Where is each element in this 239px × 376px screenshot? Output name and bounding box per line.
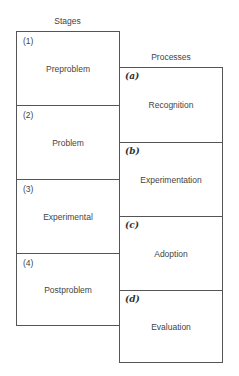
process-a-marker: (a) [125,71,139,81]
processes-column-title: Processes [119,52,223,62]
process-a: (a) Recognition [120,68,222,142]
process-c-label: Adoption [120,249,222,259]
stage-2: (2) Problem [17,105,119,179]
stage-4-label: Postproblem [17,285,119,295]
process-b-label: Experimentation [120,175,222,185]
stage-2-label: Problem [17,138,119,148]
stages-column-title: Stages [16,16,119,26]
stage-1-marker: (1) [23,36,33,46]
stage-3-marker: (3) [23,184,33,194]
process-c-marker: (c) [125,220,139,230]
stage-1: (1) Preproblem [17,32,119,105]
process-a-label: Recognition [120,100,222,110]
process-b: (b) Experimentation [120,142,222,216]
process-d-marker: (d) [125,294,140,304]
stage-3: (3) Experimental [17,179,119,253]
processes-box: (a) Recognition (b) Experimentation (c) … [119,67,223,363]
stage-4-marker: (4) [23,258,33,268]
process-d: (d) Evaluation [120,290,222,362]
process-c: (c) Adoption [120,216,222,290]
process-b-marker: (b) [125,146,140,156]
stage-2-marker: (2) [23,110,33,120]
stage-3-label: Experimental [17,212,119,222]
process-d-label: Evaluation [120,322,222,332]
stage-1-label: Preproblem [17,64,119,74]
stages-box: (1) Preproblem (2) Problem (3) Experimen… [16,31,120,326]
stage-4: (4) Postproblem [17,253,119,325]
